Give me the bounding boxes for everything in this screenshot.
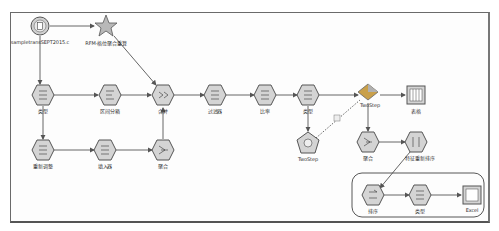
node-label: Excel bbox=[466, 207, 479, 213]
stream-canvas[interactable] bbox=[0, 0, 499, 231]
node-label: 聚合 bbox=[363, 154, 373, 161]
node-label: 合并 bbox=[158, 107, 168, 114]
twostep-nugget-node[interactable] bbox=[358, 84, 378, 100]
node-label: 过滤器 bbox=[208, 107, 223, 114]
node-label: 类型 bbox=[38, 107, 48, 114]
node-label: 表格 bbox=[411, 107, 421, 114]
node-label: 重新调整 bbox=[33, 162, 53, 169]
node-label: RFM-格位聚合重算 bbox=[85, 39, 126, 46]
file-source-node[interactable] bbox=[31, 17, 49, 35]
reorder-node-hex bbox=[405, 132, 427, 152]
model-link-icon bbox=[334, 115, 340, 121]
excel-export-node[interactable] bbox=[463, 186, 481, 204]
node-label: TwoStep bbox=[360, 102, 380, 108]
node-label: 排序 bbox=[368, 207, 378, 214]
node-label: sampletransSEPT2015.c bbox=[11, 39, 69, 45]
rfm-supernode-star[interactable] bbox=[95, 15, 117, 36]
document-icon bbox=[38, 23, 43, 30]
node-label: 特征重新排序 bbox=[405, 154, 434, 161]
node-label: 区间分箱 bbox=[100, 107, 120, 114]
sort-node-hex bbox=[362, 185, 384, 205]
table-node[interactable] bbox=[407, 86, 425, 104]
excel-icon bbox=[466, 189, 478, 201]
cluster-icon bbox=[304, 139, 312, 147]
star-icon bbox=[95, 15, 117, 36]
node-label: 填入器 bbox=[98, 162, 113, 169]
node-label: TwoStep bbox=[298, 156, 318, 162]
node-label: 类型 bbox=[415, 207, 425, 214]
node-label: 比率 bbox=[260, 107, 270, 114]
node-label: 类型 bbox=[303, 107, 313, 114]
node-label: 聚合 bbox=[158, 162, 168, 169]
